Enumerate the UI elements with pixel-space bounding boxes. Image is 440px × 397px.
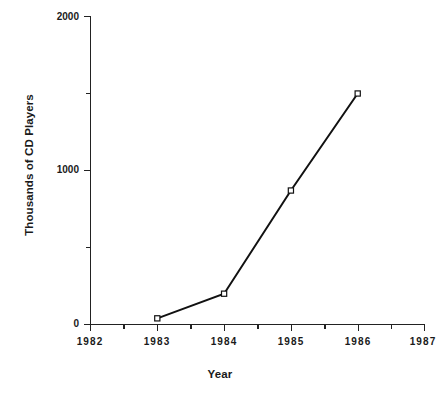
- x-tick-label-1986: 1986: [345, 336, 372, 347]
- x-tick-label-1984: 1984: [211, 336, 238, 347]
- y-tick-label-0: 0: [73, 318, 79, 329]
- series-line-cd-players: [157, 94, 357, 319]
- data-point-1983: [155, 316, 160, 321]
- x-axis-title: Year: [0, 368, 440, 380]
- series-markers: [155, 91, 361, 321]
- data-point-1984: [222, 291, 227, 296]
- plot-area: 0 1000 2000 1982 1983 1984 1985 1986 198…: [0, 0, 440, 397]
- y-tick-label-2000: 2000: [57, 11, 80, 22]
- line-chart: Thousands of CD Players 0 1000 2000 1982…: [0, 0, 440, 397]
- data-point-1985: [288, 188, 293, 193]
- x-tick-label-1983: 1983: [144, 336, 171, 347]
- x-tick-label-1985: 1985: [278, 336, 305, 347]
- x-tick-label-1987: 1987: [410, 336, 437, 347]
- y-tick-label-1000: 1000: [57, 164, 80, 175]
- x-tick-label-1982: 1982: [77, 336, 104, 347]
- data-point-1986: [355, 91, 360, 96]
